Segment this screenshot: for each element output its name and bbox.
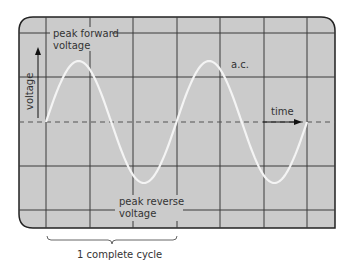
- ac-label: a.c.: [231, 59, 249, 70]
- voltage-label: voltage: [24, 73, 35, 110]
- time-label: time: [271, 106, 294, 117]
- peak-reverse-label-1: peak reverse: [119, 196, 184, 207]
- peak-reverse-label-2: voltage: [119, 208, 156, 219]
- oscilloscope-diagram: voltage time a.c. peak forward voltage p…: [0, 0, 353, 264]
- cycle-brace: [47, 236, 177, 244]
- peak-forward-label-2: voltage: [53, 40, 90, 51]
- peak-forward-label-1: peak forward: [53, 28, 119, 39]
- cycle-label: 1 complete cycle: [77, 249, 162, 260]
